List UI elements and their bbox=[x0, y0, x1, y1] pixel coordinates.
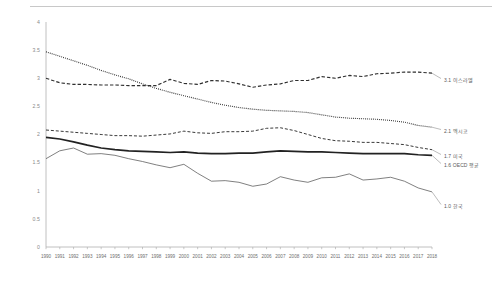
leader-line bbox=[432, 127, 441, 129]
leader-line bbox=[432, 155, 441, 163]
chart-series-lines bbox=[46, 52, 432, 192]
y-tick-label: 1.5 bbox=[20, 159, 40, 165]
y-tick-label: 0.5 bbox=[20, 216, 40, 222]
leader-line bbox=[432, 192, 441, 205]
x-tick-label: 2018 bbox=[421, 254, 443, 259]
leader-line bbox=[432, 73, 441, 78]
label-leader-lines bbox=[432, 73, 441, 204]
y-tick-label: 2 bbox=[20, 131, 40, 137]
series-end-label: 1.0 한국 bbox=[444, 202, 463, 209]
series-line bbox=[46, 128, 432, 150]
series-line bbox=[46, 52, 432, 127]
y-tick-label: 3.5 bbox=[20, 47, 40, 53]
y-tick-label: 3 bbox=[20, 75, 40, 81]
y-tick-label: 4 bbox=[20, 19, 40, 25]
series-end-label: 2.1 멕시코 bbox=[444, 127, 468, 134]
series-line bbox=[46, 137, 432, 155]
chart-container: 00.511.522.533.54 1990199119921993199419… bbox=[0, 0, 500, 287]
series-end-label: 1.6 OECD 평균 bbox=[444, 161, 479, 168]
series-line bbox=[46, 148, 432, 192]
y-tick-label: 1 bbox=[20, 188, 40, 194]
leader-line bbox=[432, 150, 441, 155]
line-chart-plot bbox=[0, 0, 500, 287]
series-line bbox=[46, 72, 432, 87]
chart-axes bbox=[46, 22, 432, 249]
y-tick-label: 0 bbox=[20, 244, 40, 250]
y-tick-label: 2.5 bbox=[20, 103, 40, 109]
series-end-label: 1.7 미국 bbox=[444, 152, 463, 159]
series-end-label: 3.1 이스라엘 bbox=[444, 76, 473, 83]
